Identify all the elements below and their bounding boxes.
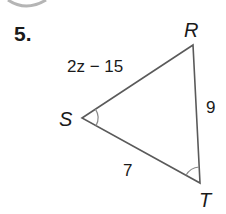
vertex-label-t: T [199, 190, 211, 210]
angle-mark-t [186, 167, 199, 175]
vertex-label-r: R [184, 20, 198, 40]
angle-mark-s [95, 109, 98, 126]
triangle-diagram: 5. R S T 2z − 15 9 7 [0, 0, 226, 214]
cropped-circle-arc [8, 0, 46, 6]
side-label-rt: 9 [206, 99, 215, 116]
side-label-st: 7 [123, 162, 132, 179]
problem-number: 5. [14, 23, 32, 44]
vertex-label-s: S [59, 109, 72, 129]
side-label-sr: 2z − 15 [67, 58, 123, 75]
